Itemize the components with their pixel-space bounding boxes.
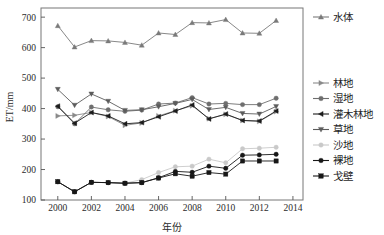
y-axis-ticks: 100200300400500600700 — [22, 13, 45, 206]
data-point — [274, 145, 278, 149]
x-tick-label: 2006 — [149, 203, 168, 213]
series-layer — [55, 17, 278, 194]
legend-label: 戈壁 — [333, 170, 354, 182]
data-point — [56, 113, 61, 118]
y-tick-label: 500 — [22, 73, 37, 83]
data-point — [257, 153, 261, 157]
data-point — [173, 165, 177, 169]
legend-label: 灌木林地 — [333, 108, 374, 120]
legend-item-湿地[interactable]: 湿地 — [313, 92, 354, 104]
y-tick-label: 400 — [22, 104, 37, 114]
data-point — [274, 96, 278, 100]
legend-label: 沙地 — [333, 139, 354, 151]
data-point — [190, 170, 194, 174]
x-axis-ticks: 20002002200420062008201020122014 — [48, 196, 302, 213]
data-point — [257, 159, 261, 163]
y-tick-label: 100 — [22, 195, 37, 205]
chart-svg: 100200300400500600700 200020022004200620… — [0, 0, 384, 235]
data-point — [207, 164, 211, 168]
legend-label: 草地 — [333, 123, 354, 135]
data-point — [274, 104, 279, 109]
legend-marker-icon — [318, 111, 323, 116]
legend-item-沙地[interactable]: 沙地 — [313, 139, 354, 151]
data-point — [274, 152, 278, 156]
data-point — [224, 161, 228, 165]
data-point — [106, 108, 110, 112]
data-point — [89, 105, 93, 109]
series-4 — [55, 87, 278, 116]
x-tick-label: 2012 — [250, 203, 269, 213]
data-point — [274, 159, 278, 163]
x-tick-label: 2002 — [82, 203, 101, 213]
legend-label: 水体 — [333, 12, 354, 23]
chart-figure: 100200300400500600700 200020022004200620… — [0, 0, 384, 235]
data-point — [223, 17, 228, 22]
legend-marker-icon — [319, 158, 324, 163]
legend-label: 裸地 — [333, 154, 354, 166]
data-point — [190, 174, 194, 178]
y-tick-label: 300 — [22, 134, 37, 144]
data-point — [224, 172, 228, 176]
data-point — [73, 113, 78, 118]
data-point — [72, 103, 77, 108]
series-0 — [55, 17, 278, 49]
data-point — [224, 166, 228, 170]
series-5 — [56, 145, 279, 194]
data-point — [206, 107, 211, 112]
data-point — [89, 92, 94, 97]
series-7 — [56, 159, 279, 194]
x-tick-label: 2014 — [283, 203, 302, 213]
data-point — [140, 181, 144, 185]
legend-item-戈壁[interactable]: 戈壁 — [313, 170, 354, 182]
data-point — [72, 190, 76, 194]
legend-label: 林地 — [333, 77, 354, 89]
series-6 — [56, 152, 279, 194]
legend-marker-icon — [319, 143, 324, 148]
data-point — [240, 153, 244, 157]
legend: 水体林地湿地灌木林地草地沙地裸地戈壁 — [313, 12, 374, 182]
x-tick-label: 2004 — [115, 203, 134, 213]
y-tick-label: 700 — [22, 13, 37, 23]
legend-label: 湿地 — [333, 92, 354, 104]
data-point — [207, 157, 211, 161]
data-point — [240, 159, 244, 163]
x-tick-label: 2000 — [48, 203, 67, 213]
data-point — [240, 147, 244, 151]
data-point — [106, 181, 110, 185]
legend-item-草地[interactable]: 草地 — [313, 123, 354, 135]
legend-marker-icon — [319, 80, 324, 85]
data-point — [257, 102, 261, 106]
data-point — [173, 172, 177, 176]
data-point — [123, 181, 127, 185]
data-point — [56, 180, 60, 184]
series-3 — [55, 102, 278, 126]
y-tick-label: 200 — [22, 165, 37, 175]
legend-marker-icon — [319, 96, 324, 101]
data-point — [106, 99, 111, 104]
y-tick-label: 600 — [22, 43, 37, 53]
legend-item-灌木林地[interactable]: 灌木林地 — [313, 108, 374, 120]
legend-item-裸地[interactable]: 裸地 — [313, 154, 354, 166]
y-axis-title: ET/mm — [4, 92, 15, 123]
x-axis-title: 年份 — [162, 221, 182, 233]
legend-item-水体[interactable]: 水体 — [313, 12, 354, 23]
data-point — [240, 102, 244, 106]
data-point — [156, 170, 160, 174]
series-line — [58, 161, 276, 192]
series-2 — [56, 95, 279, 126]
legend-marker-icon — [319, 174, 323, 178]
data-point — [156, 176, 160, 180]
data-point — [274, 18, 279, 23]
x-tick-label: 2008 — [183, 203, 202, 213]
legend-items: 水体林地湿地灌木林地草地沙地裸地戈壁 — [313, 12, 374, 182]
data-point — [207, 102, 211, 106]
data-point — [207, 170, 211, 174]
data-point — [224, 101, 228, 105]
data-point — [257, 146, 261, 150]
x-tick-label: 2010 — [216, 203, 235, 213]
data-point — [55, 23, 60, 28]
data-point — [89, 180, 93, 184]
data-point — [190, 164, 194, 168]
legend-item-林地[interactable]: 林地 — [313, 77, 354, 89]
